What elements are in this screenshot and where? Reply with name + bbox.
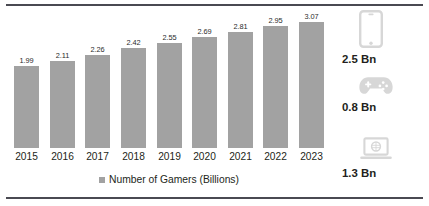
bar-value-label: 3.07	[292, 12, 331, 21]
bar	[121, 48, 146, 148]
gamepad-icon	[359, 74, 425, 100]
laptop-icon	[359, 136, 425, 166]
x-axis: 201520162017201820192020202120222023	[14, 150, 324, 166]
smartphone-icon	[359, 10, 425, 52]
bar-value-label: 2.81	[221, 22, 260, 31]
side-item-value: 2.5 Bn	[342, 52, 425, 66]
bar-group: 3.07	[299, 10, 324, 148]
bar	[14, 66, 39, 148]
bar-group: 1.99	[14, 10, 39, 148]
bar-group: 2.81	[228, 10, 253, 148]
chart-figure: 1.992.112.262.422.552.692.812.953.07 201…	[0, 0, 429, 206]
bar-value-label: 2.55	[150, 33, 189, 42]
bar	[50, 61, 75, 148]
bar-group: 2.42	[121, 10, 146, 148]
bar-chart: 1.992.112.262.422.552.692.812.953.07 201…	[0, 10, 336, 196]
x-axis-tick-label: 2023	[292, 150, 331, 164]
bar	[228, 32, 253, 148]
bar	[85, 55, 110, 148]
bar	[299, 22, 324, 148]
bar-value-label: 2.95	[256, 16, 295, 25]
side-item-value: 1.3 Bn	[342, 166, 425, 180]
x-axis-tick-label: 2020	[185, 150, 224, 164]
bar-group: 2.55	[157, 10, 182, 148]
plot-area: 1.992.112.262.422.552.692.812.953.07	[14, 10, 324, 148]
bar-value-label: 1.99	[7, 56, 46, 65]
bar-value-label: 2.42	[114, 38, 153, 47]
side-item-value: 0.8 Bn	[342, 100, 425, 114]
side-item-gamepad: 0.8 Bn	[337, 74, 425, 114]
legend-label: Number of Gamers (Billions)	[109, 173, 239, 186]
x-axis-tick-label: 2021	[221, 150, 260, 164]
bar-group: 2.95	[263, 10, 288, 148]
bar-value-label: 2.26	[78, 45, 117, 54]
bar-value-label: 2.11	[43, 51, 82, 60]
x-axis-tick-label: 2015	[7, 150, 46, 164]
x-axis-tick-label: 2016	[43, 150, 82, 164]
x-axis-tick-label: 2018	[114, 150, 153, 164]
device-breakdown-panel: 2.5 Bn 0.8 Bn	[337, 10, 425, 198]
legend-swatch	[99, 177, 105, 183]
bar	[157, 43, 182, 148]
bar	[192, 37, 217, 148]
side-item-smartphone: 2.5 Bn	[337, 10, 425, 66]
bar-group: 2.69	[192, 10, 217, 148]
x-axis-tick-label: 2017	[78, 150, 117, 164]
x-axis-tick-label: 2019	[150, 150, 189, 164]
chart-legend: Number of Gamers (Billions)	[14, 173, 324, 186]
top-divider	[6, 4, 423, 6]
side-item-laptop: 1.3 Bn	[337, 136, 425, 180]
bar-group: 2.26	[85, 10, 110, 148]
bar	[263, 26, 288, 148]
x-axis-tick-label: 2022	[256, 150, 295, 164]
bar-group: 2.11	[50, 10, 75, 148]
bar-value-label: 2.69	[185, 27, 224, 36]
